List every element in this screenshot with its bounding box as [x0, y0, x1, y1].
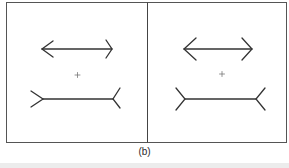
- figure-caption: (b): [0, 146, 289, 157]
- muller-lyer-figure: [0, 0, 289, 168]
- left-plus-marker: [75, 73, 80, 78]
- right-panel: [176, 38, 265, 110]
- left-panel: [31, 40, 120, 108]
- footer-strip: [0, 163, 289, 168]
- right-fin-line: [176, 88, 265, 110]
- left-double-arrow: [42, 40, 112, 58]
- figure-frame: [7, 3, 287, 143]
- left-fin-line: [31, 88, 120, 108]
- right-plus-marker: [220, 72, 225, 77]
- right-double-arrow: [184, 38, 252, 60]
